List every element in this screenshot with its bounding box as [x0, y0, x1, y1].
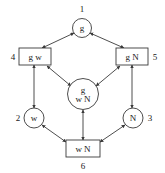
- node-label-node-5-line-0: g N: [125, 52, 139, 62]
- graph-node-node-2[interactable]: w2: [16, 108, 44, 128]
- node-index-node-3: 3: [148, 113, 153, 123]
- graph-node-node-1[interactable]: g1: [73, 4, 92, 38]
- node-index-node-4: 4: [11, 52, 16, 62]
- edge-node-4-to-node-1: [42, 33, 74, 48]
- graph-node-node-5[interactable]: g N5: [116, 48, 158, 65]
- edge-node-7-to-node-5: [96, 66, 120, 86]
- graph-node-node-7[interactable]: gw N: [68, 79, 99, 110]
- graph-node-node-6[interactable]: w N6: [66, 140, 100, 171]
- nodes-layer: g1g w4g N5gw Nw2N3w N6: [11, 4, 158, 171]
- graph-node-node-3[interactable]: N3: [123, 108, 153, 128]
- edge-node-1-to-node-5: [90, 33, 124, 48]
- graph-node-node-4[interactable]: g w4: [11, 48, 51, 65]
- lattice-diagram: g1g w4g N5gw Nw2N3w N6: [0, 0, 165, 173]
- node-label-node-4-line-0: g w: [28, 52, 42, 62]
- node-label-node-7-line-1: w N: [75, 94, 91, 104]
- edge-node-6-to-node-3: [100, 125, 125, 142]
- node-label-node-1-line-0: g: [80, 23, 85, 33]
- diagram-canvas: g1g w4g N5gw Nw2N3w N6: [0, 0, 165, 173]
- node-label-node-3-line-0: N: [130, 113, 137, 123]
- node-index-node-6: 6: [81, 161, 86, 171]
- node-label-node-6-line-0: w N: [75, 144, 91, 154]
- edge-node-4-to-node-7: [47, 66, 71, 86]
- node-index-node-5: 5: [153, 52, 158, 62]
- node-label-node-2-line-0: w: [31, 113, 38, 123]
- node-index-node-1: 1: [80, 4, 85, 14]
- edge-node-2-to-node-6: [42, 125, 66, 142]
- node-index-node-2: 2: [16, 113, 21, 123]
